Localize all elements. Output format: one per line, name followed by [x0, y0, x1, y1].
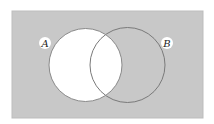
label-a: A	[39, 37, 51, 49]
label-b-text: B	[162, 38, 170, 49]
label-b: B	[161, 37, 173, 49]
label-a-text: A	[40, 38, 48, 49]
venn-diagram: A B	[0, 0, 214, 124]
